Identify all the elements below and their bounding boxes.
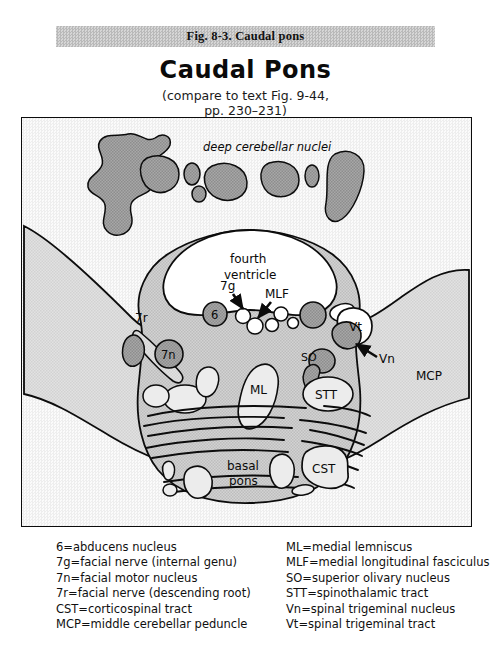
legend-item: CST=corticospinal tract [56, 602, 286, 617]
legend-column-right: ML=medial lemniscus MLF=medial longitudi… [286, 540, 491, 632]
cerebellar-blob-b [184, 163, 200, 185]
label-seven-r: 7r [135, 311, 148, 325]
mlf-circle-5 [288, 318, 299, 329]
label-seven-n: 7n [161, 348, 176, 362]
label-six: 6 [211, 308, 218, 322]
label-stt: STT [315, 388, 338, 402]
legend-item: 7n=facial motor nucleus [56, 571, 286, 586]
label-cst: CST [312, 462, 336, 476]
subtitle-line-2: pp. 230–231) [0, 103, 491, 118]
facial-nerve-exit [123, 335, 145, 366]
legend-column-left: 6=abducens nucleus 7g=facial nerve (inte… [56, 540, 286, 632]
page-title: Caudal Pons [0, 56, 491, 84]
mlf-circle-2 [247, 318, 263, 334]
lateral-nucleus-right [300, 302, 326, 328]
basal-pons-inclusion-c [163, 461, 175, 480]
label-mlf: MLF [265, 287, 289, 301]
basal-pons-inclusion-b [184, 466, 212, 498]
label-basal-line1: basal [227, 459, 259, 473]
label-so: SO [301, 351, 317, 364]
cerebellar-blob-c [192, 186, 206, 202]
figure-caption-band: Fig. 8-3. Caudal pons [56, 26, 435, 47]
cerebellar-blob-e [261, 162, 299, 197]
legend-item: MLF=medial longitudinal fasciculus [286, 555, 491, 570]
label-seven-g: 7g [220, 279, 235, 293]
legend-item: STT=spinothalamic tract [286, 586, 491, 601]
label-deep-cerebellar-nuclei: deep cerebellar nuclei [203, 140, 332, 154]
subtitle-line-1: (compare to text Fig. 9-44, [0, 88, 491, 103]
legend: 6=abducens nucleus 7g=facial nerve (inte… [0, 540, 491, 632]
label-vt: Vt [349, 320, 362, 334]
legend-item: Vt=spinal trigeminal tract [286, 617, 491, 632]
legend-item: MCP=middle cerebellar peduncle [56, 617, 286, 632]
cerebellar-blob-g [325, 151, 364, 221]
mlf-circle-3 [266, 319, 279, 332]
basal-pons-inclusion-a [270, 454, 295, 488]
tegmental-cavity-left-small [143, 385, 169, 407]
basal-pons-inclusion-d [163, 484, 177, 496]
anatomy-figure-frame: deep cerebellar nuclei fourth ventricle … [21, 117, 472, 527]
cerebellar-blob-f [305, 165, 319, 187]
page-subtitle: (compare to text Fig. 9-44, pp. 230–231) [0, 88, 491, 118]
legend-item: SO=superior olivary nucleus [286, 571, 491, 586]
cerebellar-blob-a [140, 156, 179, 193]
legend-item: 6=abducens nucleus [56, 540, 286, 555]
label-basal-line2: pons [229, 474, 258, 488]
label-ml: ML [250, 383, 267, 397]
legend-item: 7r=facial nerve (descending root) [56, 586, 286, 601]
mlf-circle-4 [274, 307, 288, 321]
label-vn: Vn [379, 352, 395, 366]
legend-item: ML=medial lemniscus [286, 540, 491, 555]
cerebellar-blob-d [204, 163, 247, 200]
label-fourth-ventricle-line1: fourth [230, 252, 266, 266]
legend-item: Vn=spinal trigeminal nucleus [286, 602, 491, 617]
figure-caption-text: Fig. 8-3. Caudal pons [187, 29, 305, 44]
label-mcp: MCP [416, 369, 442, 383]
legend-item: 7g=facial nerve (internal genu) [56, 555, 286, 570]
